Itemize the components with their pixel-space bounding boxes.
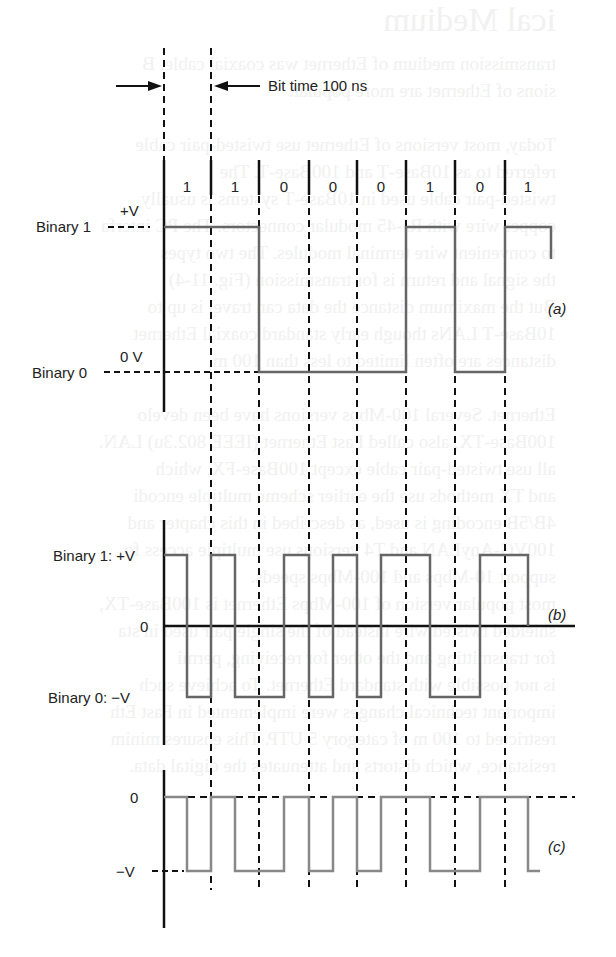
binary0-label-b: Binary 0: −V xyxy=(48,689,130,706)
bit-label: 0 xyxy=(329,178,337,195)
minus-v-label-c: −V xyxy=(116,863,135,880)
encoding-diagram: Bit time 100 ns 1 1 0 0 0 1 0 1 Binary 1… xyxy=(0,0,616,957)
panel-c: 0 −V (c) xyxy=(116,770,575,928)
bit-label: 0 xyxy=(377,178,385,195)
panel-b: Binary 1: +V 0 Binary 0: −V (b) xyxy=(48,520,575,745)
panel-a: Binary 1 +V Binary 0 0 V (a) xyxy=(32,160,566,412)
zero-label-c: 0 xyxy=(130,789,138,806)
bit-label: 1 xyxy=(183,178,191,195)
arrow-left-icon xyxy=(214,81,228,91)
bit-label: 1 xyxy=(426,178,434,195)
bit-label: 1 xyxy=(524,178,532,195)
binary1-label-a: Binary 1 xyxy=(36,218,91,235)
panel-b-label: (b) xyxy=(548,606,566,623)
bit-label: 0 xyxy=(476,178,484,195)
plus-v-label-a: +V xyxy=(120,202,139,219)
bit-label: 0 xyxy=(280,178,288,195)
single-polarity-manchester-waveform xyxy=(164,797,540,871)
bit-time-label: Bit time 100 ns xyxy=(268,77,367,94)
bit-separators xyxy=(211,160,505,195)
arrow-right-icon xyxy=(148,81,162,91)
zero-v-label-a: 0 V xyxy=(120,348,143,365)
binary0-label-a: Binary 0 xyxy=(32,364,87,381)
bit-label: 1 xyxy=(231,178,239,195)
panel-a-label: (a) xyxy=(548,300,566,317)
binary1-label-b: Binary 1: +V xyxy=(53,547,135,564)
panel-c-label: (c) xyxy=(548,838,566,855)
zero-label-b: 0 xyxy=(140,618,148,635)
bit-time-indicator: Bit time 100 ns xyxy=(116,77,367,94)
